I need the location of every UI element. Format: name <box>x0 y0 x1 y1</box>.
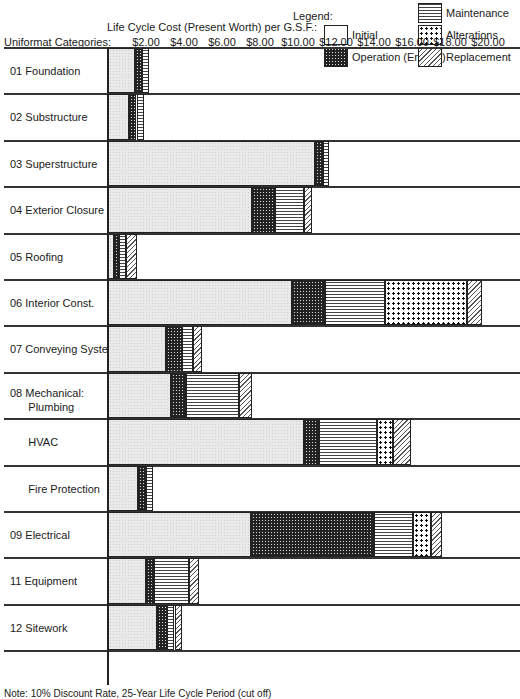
bar-segment-replacement <box>239 373 252 418</box>
row-divider <box>4 233 520 235</box>
legend-label: Maintenance <box>446 7 509 19</box>
bar-segment-maintenance <box>325 280 386 325</box>
row-divider <box>4 465 520 467</box>
category-label: 05 Roofing <box>10 250 63 264</box>
bar-segment-initial <box>108 187 252 232</box>
footnote: Note: 10% Discount Rate, 25-Year Life Cy… <box>4 688 271 699</box>
bar-segment-operation <box>171 373 186 418</box>
bar-segment-replacement <box>467 280 482 325</box>
legend-label: Replacement <box>446 51 511 63</box>
bar-segment-initial <box>108 141 315 186</box>
bar-segment-initial <box>108 419 304 464</box>
row-divider <box>4 93 520 95</box>
row-divider <box>4 372 520 374</box>
bar-segment-alterations <box>385 280 467 325</box>
bar-segment-operation <box>292 280 324 325</box>
category-label: 08 Mechanical: Plumbing <box>10 386 84 414</box>
bar-segment-maintenance <box>154 558 189 603</box>
operation-swatch-icon <box>324 47 348 67</box>
bar-segment-operation <box>304 419 319 464</box>
bar-segment-operation <box>251 512 375 557</box>
bar-segment-maintenance <box>374 512 413 557</box>
bar-segment-maintenance <box>137 94 145 139</box>
replacement-swatch-icon <box>418 47 442 67</box>
bar-segment-replacement <box>189 558 199 603</box>
bar-segment-initial <box>108 94 129 139</box>
category-label: Fire Protection <box>10 482 100 496</box>
bar-segment-initial <box>108 48 135 93</box>
bar-segment-alterations <box>413 512 431 557</box>
category-label: 07 Conveying System <box>10 342 117 356</box>
x-axis-ticks: $2.00$4.00$6.00$8.00$10.00$12.00$14.00$1… <box>0 22 520 36</box>
bar-segment-replacement <box>393 419 411 464</box>
bar-segment-maintenance <box>182 326 192 371</box>
bar-segment-maintenance <box>167 605 175 650</box>
bar-segment-initial <box>108 373 171 418</box>
bar-segment-operation <box>135 48 143 93</box>
category-label: 02 Substructure <box>10 110 88 124</box>
category-label: 01 Foundation <box>10 64 80 78</box>
bar-segment-maintenance <box>146 466 153 511</box>
bar-segment-initial <box>108 512 251 557</box>
category-label: 03 Superstructure <box>10 157 97 171</box>
maintenance-swatch-icon <box>418 3 442 23</box>
bar-segment-operation <box>252 187 275 232</box>
bar-segment-operation <box>315 141 323 186</box>
row-divider <box>4 650 520 652</box>
bar-segment-maintenance <box>323 141 330 186</box>
bar-segment-initial <box>108 466 138 511</box>
row-divider <box>4 604 520 606</box>
bar-segment-operation <box>138 466 146 511</box>
row-divider <box>4 325 520 327</box>
legend-item-replacement: Replacement <box>418 46 511 68</box>
category-label: 04 Exterior Closure <box>10 203 104 217</box>
bar-segment-operation <box>157 605 167 650</box>
bar-segment-maintenance <box>186 373 239 418</box>
row-divider <box>4 557 520 559</box>
bar-segment-replacement <box>126 234 137 279</box>
bar-segment-maintenance <box>142 48 149 93</box>
legend-item-maintenance: Maintenance <box>418 2 509 24</box>
bar-segment-alterations <box>377 419 393 464</box>
category-label: 12 Sitework <box>10 621 67 635</box>
category-label: 11 Equipment <box>10 574 77 588</box>
bar-segment-operation <box>166 326 182 371</box>
bar-segment-replacement <box>304 187 313 232</box>
bar-segment-maintenance <box>275 187 304 232</box>
bar-segment-replacement <box>193 326 203 371</box>
bar-segment-operation <box>129 94 137 139</box>
row-divider <box>4 47 520 49</box>
bar-segment-maintenance <box>119 234 126 279</box>
category-label: 06 Interior Const. <box>10 296 94 310</box>
bar-segment-replacement <box>431 512 442 557</box>
category-label: 09 Electrical <box>10 528 70 542</box>
bar-segment-initial <box>108 280 292 325</box>
bar-segment-operation <box>146 558 154 603</box>
bar-segment-initial <box>108 558 146 603</box>
bar-segment-initial <box>108 326 166 371</box>
bar-segment-initial <box>108 605 157 650</box>
category-label: HVAC <box>10 435 58 449</box>
bar-segment-replacement <box>175 605 183 650</box>
y-axis-line <box>107 47 109 685</box>
bar-segment-maintenance <box>319 419 377 464</box>
